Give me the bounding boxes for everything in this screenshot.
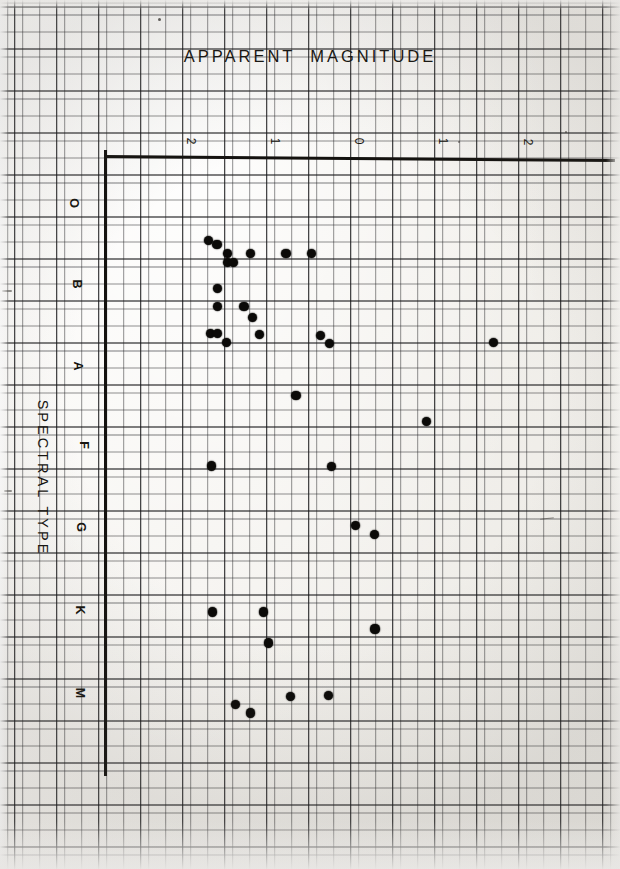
x-tick-label-minus1: 1 — [268, 133, 282, 149]
y-axis-title: SPECTRAL TYPE — [35, 368, 51, 588]
x-tick-label-zero: 0 — [352, 133, 366, 149]
scanned-graph-page: APPARENT MAGNITUDE 2 1 0 1 2 O B A F G K… — [0, 0, 620, 869]
page-edge-left — [0, 0, 9, 869]
data-point — [212, 240, 221, 249]
y-tick-label-K: K — [73, 602, 87, 618]
x-tick-label-plus1: 1 — [436, 133, 450, 149]
page-edge-top — [0, 0, 620, 10]
data-point — [239, 302, 248, 311]
data-point — [207, 461, 216, 470]
major-gridlines — [0, 0, 620, 869]
data-point — [222, 338, 231, 347]
x-tick-label-plus2: 2 — [521, 134, 535, 150]
page-edge-right — [606, 0, 620, 869]
data-point — [286, 692, 295, 701]
data-point — [370, 624, 379, 633]
data-point — [246, 708, 255, 717]
y-tick-label-F: F — [77, 437, 91, 453]
x-tick-label-minus2: 2 — [184, 133, 198, 149]
y-axis-line — [104, 150, 107, 776]
data-point — [489, 338, 498, 347]
data-point — [307, 249, 316, 258]
y-tick-label-G: G — [74, 519, 88, 535]
data-point — [208, 607, 217, 616]
scan-speck — [565, 131, 567, 133]
y-tick-label-B: B — [70, 276, 84, 292]
data-point — [264, 638, 273, 647]
data-point — [370, 530, 379, 539]
data-point — [281, 249, 290, 258]
y-tick-label-M: M — [73, 685, 87, 701]
y-tick-label-A: A — [71, 358, 85, 374]
y-tick-label-O: O — [67, 195, 81, 211]
data-point — [422, 417, 431, 426]
data-point — [223, 249, 232, 258]
scan-speck — [458, 141, 460, 143]
chart-title: APPARENT MAGNITUDE — [0, 47, 620, 66]
page-edge-bottom — [0, 821, 620, 869]
data-point — [259, 607, 268, 616]
scan-speck — [158, 18, 161, 21]
data-point — [291, 391, 300, 400]
